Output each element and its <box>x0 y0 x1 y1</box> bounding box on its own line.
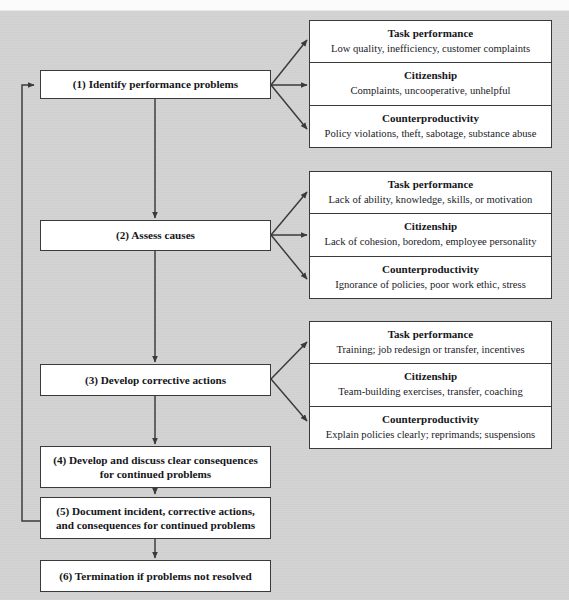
panel-bottom-edge <box>0 600 569 610</box>
group-problems-cell-citizenship[interactable]: Citizenship Complaints, uncooperative, u… <box>310 62 551 104</box>
flow-step-4-label-line2: for continued problems <box>100 467 211 481</box>
cell-title: Counterproductivity <box>382 111 479 126</box>
flow-step-3-develop-corrective-actions[interactable]: (3) Develop corrective actions <box>40 364 271 396</box>
cell-description: Policy violations, theft, sabotage, subs… <box>325 127 537 141</box>
cell-description: Team-building exercises, transfer, coach… <box>338 385 522 399</box>
flow-step-4-develop-discuss-consequences[interactable]: (4) Develop and discuss clear consequenc… <box>40 446 271 488</box>
cell-title: Citizenship <box>404 68 457 83</box>
flow-step-1-label: (1) Identify performance problems <box>73 77 238 91</box>
cell-description: Ignorance of policies, poor work ethic, … <box>335 278 526 292</box>
group-actions-cell-task-performance[interactable]: Task performance Training; job redesign … <box>310 322 551 363</box>
group-causes-cell-counterproductivity[interactable]: Counterproductivity Ignorance of policie… <box>310 256 551 298</box>
cell-description: Complaints, uncooperative, unhelpful <box>350 84 510 98</box>
flow-step-6-label: (6) Termination if problems not resolved <box>59 569 252 583</box>
group-actions-cell-citizenship[interactable]: Citizenship Team-building exercises, tra… <box>310 363 551 405</box>
outcome-group-causes: Task performance Lack of ability, knowle… <box>309 171 552 299</box>
cell-title: Task performance <box>388 26 473 41</box>
cell-description: Lack of ability, knowledge, skills, or m… <box>329 193 533 207</box>
flow-step-5-label-line2: and consequences for continued problems <box>56 518 255 532</box>
cell-title: Counterproductivity <box>382 262 479 277</box>
cell-description: Explain policies clearly; reprimands; su… <box>326 428 535 442</box>
flow-step-6-termination[interactable]: (6) Termination if problems not resolved <box>40 560 271 592</box>
cell-description: Lack of cohesion, boredom, employee pers… <box>324 235 536 249</box>
flow-step-5-document-incident[interactable]: (5) Document incident, corrective action… <box>40 497 271 539</box>
cell-description: Training; job redesign or transfer, ince… <box>336 343 524 357</box>
outcome-group-corrective-actions: Task performance Training; job redesign … <box>309 321 552 449</box>
flow-step-2-assess-causes[interactable]: (2) Assess causes <box>40 220 271 251</box>
cell-title: Task performance <box>388 177 473 192</box>
flow-step-3-label: (3) Develop corrective actions <box>85 373 226 387</box>
cell-title: Citizenship <box>404 369 457 384</box>
flow-step-5-label-line1: (5) Document incident, corrective action… <box>56 504 255 518</box>
group-causes-cell-citizenship[interactable]: Citizenship Lack of cohesion, boredom, e… <box>310 213 551 255</box>
outcome-group-problems: Task performance Low quality, inefficien… <box>309 20 552 148</box>
diagram-canvas: (1) Identify performance problems (2) As… <box>0 0 569 610</box>
cell-title: Task performance <box>388 327 473 342</box>
page-header-strip <box>0 0 569 10</box>
flow-step-2-label: (2) Assess causes <box>116 228 195 242</box>
flow-step-1-identify-performance-problems[interactable]: (1) Identify performance problems <box>40 70 271 99</box>
group-problems-cell-counterproductivity[interactable]: Counterproductivity Policy violations, t… <box>310 105 551 147</box>
group-actions-cell-counterproductivity[interactable]: Counterproductivity Explain policies cle… <box>310 406 551 448</box>
cell-description: Low quality, inefficiency, customer comp… <box>331 42 530 56</box>
cell-title: Counterproductivity <box>382 412 479 427</box>
group-problems-cell-task-performance[interactable]: Task performance Low quality, inefficien… <box>310 21 551 62</box>
cell-title: Citizenship <box>404 219 457 234</box>
flow-step-4-label-line1: (4) Develop and discuss clear consequenc… <box>53 453 258 467</box>
group-causes-cell-task-performance[interactable]: Task performance Lack of ability, knowle… <box>310 172 551 213</box>
